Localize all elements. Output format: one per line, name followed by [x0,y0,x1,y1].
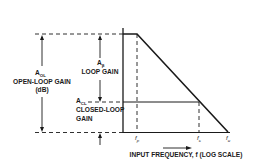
svg-text:AOL: AOL [35,69,46,78]
x-axis-label: INPUT FREQUENCY, f (LOG SCALE) [130,151,243,159]
arrowhead-up-icon [98,35,102,40]
arrowhead-up-icon [98,133,102,138]
tick-label-fu: fu [226,135,231,143]
svg-text:Aβ: Aβ [97,59,105,68]
arrowhead-up-icon [40,35,44,40]
arrowhead-down-icon [98,97,102,102]
arrowhead-right-icon [186,146,192,150]
open-loop-gain-label: AOL OPEN-LOOP GAIN (dB) [13,69,71,94]
svg-text:ACL: ACL [76,97,87,106]
svg-text:LOOP GAIN: LOOP GAIN [82,68,119,75]
svg-text:(dB): (dB) [35,86,48,94]
svg-text:CLOSED-LOOP: CLOSED-LOOP [76,106,125,113]
gain-frequency-diagram: AOL OPEN-LOOP GAIN (dB) Aβ LOOP GAIN ACL… [0,0,255,161]
loop-gain-label: Aβ LOOP GAIN [82,59,119,75]
tick-label-fp: fp [135,135,140,143]
svg-text:OPEN-LOOP GAIN: OPEN-LOOP GAIN [13,78,71,85]
open-loop-gain-curve [123,34,228,132]
svg-text:GAIN: GAIN [76,115,93,122]
tick-label-fc: fc [197,135,202,143]
frequency-direction-arrow [163,146,192,150]
closed-loop-gain-arrow [98,133,102,145]
arrowhead-down-icon [40,127,44,132]
